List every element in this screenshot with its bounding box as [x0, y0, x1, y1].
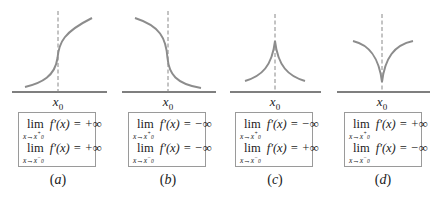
left-limit: limf′(x) = +∞ x→x−0 — [236, 141, 312, 165]
left-limit: limf′(x) = +∞ x→x−0 — [19, 141, 95, 165]
right-limit: limf′(x) = −∞ x→x+0 — [129, 117, 205, 141]
panel-a-limits-box: limf′(x) = +∞ x→x+0 limf′(x) = +∞ x→x−0 — [18, 112, 96, 167]
right-limit: limf′(x) = +∞ x→x+0 — [345, 117, 421, 141]
panel-d-plot — [337, 14, 430, 92]
panel-c-x0-label: x0 — [260, 94, 290, 112]
right-limit: limf′(x) = +∞ x→x+0 — [19, 117, 95, 141]
curve-cusp-down — [353, 41, 413, 82]
panel-c-caption: (c) — [255, 172, 295, 188]
panel-c-plot — [230, 14, 321, 92]
panel-b-caption: (b) — [148, 172, 188, 188]
panel-b-plot — [122, 11, 216, 92]
panel-a-x0-label: x0 — [43, 94, 73, 112]
panel-b-x0-label: x0 — [153, 94, 183, 112]
panel-a-plot — [12, 11, 107, 92]
right-limit: limf′(x) = −∞ x→x+0 — [236, 117, 312, 141]
panel-d-x0-label: x0 — [367, 94, 397, 112]
left-limit: limf′(x) = −∞ x→x−0 — [129, 141, 205, 165]
left-limit: limf′(x) = −∞ x→x−0 — [345, 141, 421, 165]
panel-b-limits-box: limf′(x) = −∞ x→x+0 limf′(x) = −∞ x→x−0 — [128, 112, 206, 167]
panel-c-limits-box: limf′(x) = −∞ x→x+0 limf′(x) = +∞ x→x−0 — [235, 112, 313, 167]
panel-d-caption: (d) — [363, 172, 403, 188]
panel-a-caption: (a) — [38, 172, 78, 188]
panel-d-limits-box: limf′(x) = +∞ x→x+0 limf′(x) = −∞ x→x−0 — [344, 112, 422, 167]
